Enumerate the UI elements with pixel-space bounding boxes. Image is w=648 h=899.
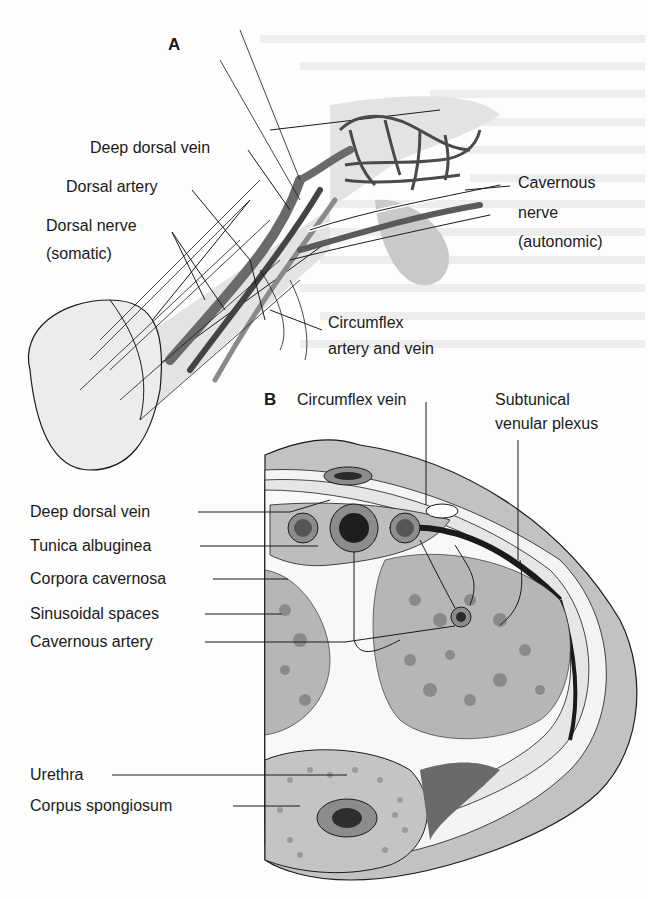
panel-b-letter: B — [264, 390, 276, 410]
label-venular-plexus: venular plexus — [495, 414, 598, 433]
label-circumflex-artery-vein-2: artery and vein — [328, 339, 434, 358]
panel-a-letter: A — [168, 35, 180, 55]
label-cavernous-nerve-autonomic: (autonomic) — [518, 232, 602, 251]
cross-section-illustration — [265, 440, 637, 880]
label-sinusoidal-spaces: Sinusoidal spaces — [30, 604, 159, 623]
label-urethra: Urethra — [30, 765, 83, 784]
anatomy-figure: A B Deep dorsal vein Dorsal artery Dorsa… — [0, 0, 648, 899]
label-deep-dorsal-vein-a: Deep dorsal vein — [90, 138, 210, 157]
label-dorsal-nerve: Dorsal nerve — [46, 216, 137, 235]
label-dorsal-nerve-somatic: (somatic) — [46, 244, 112, 263]
label-cavernous-artery: Cavernous artery — [30, 632, 153, 651]
label-cavernous-nerve-2: nerve — [518, 203, 558, 222]
label-circumflex-artery-vein: Circumflex — [328, 313, 404, 332]
label-dorsal-artery: Dorsal artery — [66, 177, 158, 196]
label-corpora-cavernosa: Corpora cavernosa — [30, 569, 166, 588]
label-cavernous-nerve: Cavernous — [518, 173, 595, 192]
label-circumflex-vein: Circumflex vein — [297, 390, 406, 409]
label-deep-dorsal-vein-b: Deep dorsal vein — [30, 502, 150, 521]
label-subtunical: Subtunical — [495, 390, 570, 409]
label-corpus-spongiosum: Corpus spongiosum — [30, 796, 172, 815]
illustration — [0, 0, 648, 899]
label-tunica-albuginea: Tunica albuginea — [30, 536, 151, 555]
